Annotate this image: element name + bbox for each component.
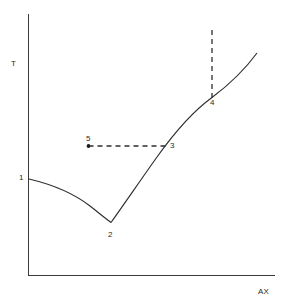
point-label-2: 2 <box>108 231 113 239</box>
plot-canvas <box>0 0 288 304</box>
point-label-5: 5 <box>86 135 91 143</box>
point-label-1: 1 <box>19 174 24 182</box>
point-label-4: 4 <box>210 99 215 107</box>
curve-descending-branch <box>29 179 111 223</box>
y-axis-title: T <box>11 60 16 68</box>
curve-ascending-branch <box>111 53 257 223</box>
point-label-3: 3 <box>170 142 175 150</box>
x-axis-title: AX <box>258 288 269 296</box>
phase-diagram-figure: T AX 1 2 3 4 5 <box>0 0 288 304</box>
point5-marker-dot <box>87 144 91 148</box>
